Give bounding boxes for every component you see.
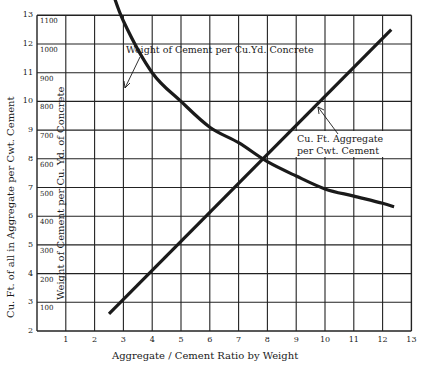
y2-tick-label: 800 [40, 103, 53, 111]
cement-curve-label: Weight of Cement per Cu.Yd. Concrete [126, 44, 314, 55]
y-tick-label: 13 [23, 10, 33, 19]
y2-tick-label: 500 [40, 190, 53, 198]
y2-tick-label: 100 [40, 304, 53, 312]
x-tick-label: 6 [207, 335, 212, 344]
x-tick-label: 5 [178, 335, 183, 344]
x-tick-label: 3 [121, 335, 126, 344]
y-tick-label: 7 [28, 183, 33, 192]
y-tick-label: 9 [28, 125, 33, 134]
y2-tick-label: 600 [40, 161, 53, 169]
aggregate-line-label-1: Cu. Ft. Aggregate [297, 133, 384, 144]
aggregate-line-label-2: per Cwt. Cement [297, 145, 379, 156]
x-axis-label: Aggregate / Cement Ratio by Weight [111, 350, 298, 361]
x-tick-label: 10 [320, 335, 330, 344]
y-tick-label: 6 [28, 211, 33, 220]
x-tick-label: 2 [92, 335, 97, 344]
x-tick-label: 9 [294, 335, 299, 344]
y2-tick-label: 400 [40, 218, 53, 226]
y-tick-label: 3 [28, 297, 33, 306]
y2-tick-label: 300 [40, 247, 53, 255]
aggregate-line-annotation: Cu. Ft. Aggregate per Cwt. Cement [295, 107, 393, 157]
y2-tick-label: 200 [40, 276, 53, 284]
y-tick-label: 11 [23, 68, 33, 77]
y-tick-label: 10 [23, 96, 33, 105]
x-tick-label: 8 [265, 335, 270, 344]
x-tick-label: 11 [349, 335, 359, 344]
grid [37, 15, 411, 331]
y-tick-label: 8 [28, 154, 33, 163]
y-tick-label: 12 [23, 39, 33, 48]
y-tick-label: 2 [28, 326, 33, 335]
y-axis-ticks: 2345678910111213 [23, 10, 33, 335]
x-tick-label: 4 [150, 335, 155, 344]
y2-tick-label: 700 [40, 132, 53, 140]
y2-axis-label: Weight of Cement per Cu. Yd. of Concrete [55, 86, 66, 300]
x-tick-label: 12 [378, 335, 388, 344]
y2-tick-label: 900 [40, 75, 53, 83]
y2-tick-label: 1100 [40, 17, 58, 25]
x-axis-ticks: 12345678910111213 [63, 335, 416, 344]
y2-tick-label: 1000 [40, 46, 58, 54]
y-axis-label: Cu. Ft. of all in Aggregate per Cwt. Cem… [5, 96, 16, 318]
x-tick-label: 1 [63, 335, 68, 344]
y-tick-label: 4 [28, 269, 33, 278]
x-tick-label: 13 [406, 335, 416, 344]
y-tick-label: 5 [28, 240, 33, 249]
x-tick-label: 7 [236, 335, 241, 344]
chart: 2345678910111213 10020030040050060070080… [0, 0, 424, 370]
